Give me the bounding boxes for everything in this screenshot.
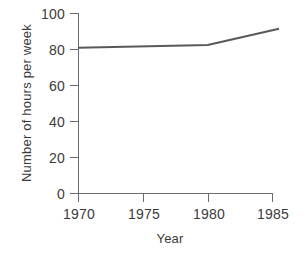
data-line-hours-per-week [78, 29, 279, 48]
chart-canvas: 100 80 60 40 20 0 1970 1975 1980 1985 Ye… [0, 0, 306, 258]
y-tick-label-20: 20 [49, 150, 65, 166]
y-tick-label-40: 40 [49, 114, 65, 130]
y-tick-marks [70, 14, 79, 194]
y-axis-title: Number of hours per week [19, 24, 34, 182]
y-tick-label-80: 80 [49, 42, 65, 58]
y-tick-label-100: 100 [41, 6, 65, 22]
x-tick-label-1975: 1975 [128, 206, 160, 222]
y-tick-labels: 100 80 60 40 20 0 [41, 6, 65, 202]
y-tick-label-0: 0 [57, 186, 65, 202]
x-axis-title: Year [156, 231, 184, 246]
line-chart: 100 80 60 40 20 0 1970 1975 1980 1985 Ye… [0, 0, 306, 258]
x-tick-label-1970: 1970 [63, 206, 95, 222]
x-tick-marks [79, 194, 273, 203]
x-tick-label-1980: 1980 [193, 206, 225, 222]
x-tick-labels: 1970 1975 1980 1985 [63, 206, 289, 222]
y-tick-label-60: 60 [49, 78, 65, 94]
x-tick-label-1985: 1985 [257, 206, 289, 222]
